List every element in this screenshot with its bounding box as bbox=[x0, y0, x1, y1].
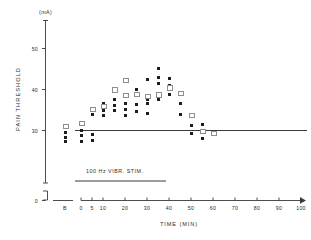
data-point-filled bbox=[113, 109, 116, 112]
data-point-filled bbox=[124, 102, 127, 105]
data-point-filled bbox=[135, 88, 138, 91]
data-point-filled bbox=[179, 102, 182, 105]
data-point-filled bbox=[64, 140, 67, 143]
data-point-filled bbox=[168, 93, 171, 96]
data-point-open bbox=[211, 131, 216, 136]
data-point-open bbox=[200, 129, 205, 134]
data-point-open bbox=[123, 93, 128, 98]
data-point-filled bbox=[179, 113, 182, 116]
data-point-open bbox=[189, 113, 194, 118]
data-point-filled bbox=[91, 113, 94, 116]
data-point-open bbox=[167, 85, 172, 90]
data-point-open bbox=[145, 94, 150, 99]
data-point-filled bbox=[80, 129, 83, 132]
data-point-filled bbox=[146, 78, 149, 81]
data-point-open bbox=[123, 78, 128, 83]
data-point-filled bbox=[80, 134, 83, 137]
data-point-filled bbox=[168, 77, 171, 80]
data-point-open bbox=[178, 91, 183, 96]
data-point-filled bbox=[190, 124, 193, 127]
pain-threshold-scatter-chart: (mA) PAIN THRESHOLD TIME (MIN) 100 Hz VI… bbox=[0, 0, 311, 240]
data-point-filled bbox=[157, 67, 160, 70]
data-point-filled bbox=[135, 103, 138, 106]
data-point-filled bbox=[201, 137, 204, 140]
data-point-filled bbox=[64, 131, 67, 134]
data-point-open bbox=[112, 87, 117, 92]
data-point-open bbox=[90, 107, 95, 112]
data-point-filled bbox=[190, 132, 193, 135]
data-point-open bbox=[156, 92, 161, 97]
data-point-filled bbox=[157, 82, 160, 85]
data-point-open bbox=[101, 104, 106, 109]
data-point-filled bbox=[201, 123, 204, 126]
data-point-filled bbox=[124, 108, 127, 111]
data-point-filled bbox=[113, 104, 116, 107]
data-point-filled bbox=[146, 112, 149, 115]
data-point-open bbox=[79, 121, 84, 126]
data-point-filled bbox=[91, 139, 94, 142]
data-point-filled bbox=[91, 133, 94, 136]
data-point-filled bbox=[157, 98, 160, 101]
data-point-filled bbox=[113, 98, 116, 101]
data-point-layer bbox=[0, 0, 311, 240]
data-point-filled bbox=[146, 102, 149, 105]
data-point-filled bbox=[64, 136, 67, 139]
data-point-open bbox=[63, 124, 68, 129]
data-point-filled bbox=[124, 114, 127, 117]
data-point-filled bbox=[135, 110, 138, 113]
data-point-filled bbox=[157, 76, 160, 79]
data-point-open bbox=[134, 92, 139, 97]
data-point-filled bbox=[80, 140, 83, 143]
data-point-filled bbox=[102, 114, 105, 117]
